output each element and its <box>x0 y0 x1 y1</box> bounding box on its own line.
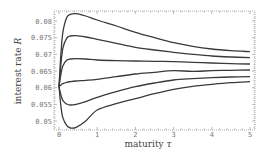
x-tick-label: 4 <box>210 131 214 139</box>
y-tick-label: 0.055 <box>31 101 52 109</box>
y-tick-label: 0.07 <box>35 51 52 59</box>
y-tick-labels: 0.050.0550.060.0650.070.0750.08 <box>31 18 52 126</box>
x-tick-label: 2 <box>133 131 137 139</box>
x-tick-label: 3 <box>171 131 175 139</box>
curve-6 <box>59 82 250 129</box>
curve-4 <box>59 70 250 87</box>
y-tick-label: 0.06 <box>35 84 52 92</box>
y-tick-label: 0.065 <box>31 68 52 76</box>
curves <box>59 14 250 129</box>
x-axis-label: maturity τ <box>124 139 172 149</box>
y-tick-label: 0.075 <box>31 34 52 42</box>
y-tick-label: 0.05 <box>35 118 52 126</box>
yield-curve-chart: 012345 0.050.0550.060.0650.070.0750.08 m… <box>0 0 267 154</box>
y-tick-label: 0.08 <box>35 18 52 26</box>
y-axis-label: interest rate R <box>13 37 23 104</box>
x-tick-label: 5 <box>248 131 252 139</box>
x-tick-label: 1 <box>95 131 99 139</box>
x-tick-labels: 012345 <box>57 131 252 139</box>
x-tick-label: 0 <box>57 131 61 139</box>
curve-5 <box>59 77 250 105</box>
